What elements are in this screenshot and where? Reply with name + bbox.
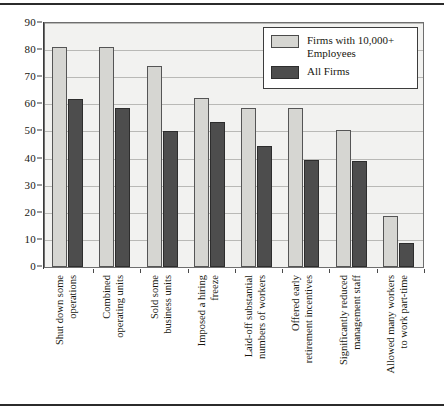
bar-all-firms [163,131,178,267]
y-axis-tick-mark [37,49,42,50]
bar-all-firms [352,161,367,267]
y-axis-tick-label: 80 [25,43,36,55]
y-axis: 0102030405060708090 [0,22,42,268]
bar-all-firms [257,146,272,267]
x-axis-category-label: Combinedoperating units [101,275,126,407]
y-axis-tick-mark [37,211,42,212]
x-axis-label-line2: operating units [114,275,127,407]
bar-firms-10000-plus [99,47,114,267]
bar-all-firms [115,108,130,267]
x-axis-label-line2: management staff [350,275,363,407]
x-axis-tick-mark [424,269,425,273]
x-axis-tick-mark [140,269,141,273]
x-axis-label-line1: Shut down some [54,275,65,345]
y-axis-tick-label: 10 [25,233,36,245]
x-axis-tick-mark [377,269,378,273]
legend-label-all-firms: All Firms [307,65,349,78]
bar-all-firms [68,99,83,267]
y-axis-tick-mark [37,22,42,23]
x-axis-label-line1: Sold some [149,275,160,319]
x-axis-label-line2: freeze [208,275,221,407]
figure-container: 0102030405060708090 Shut down someoperat… [0,0,444,415]
x-axis-label-line2: to work part-time [397,275,410,407]
legend-item-firms-10000-plus: Firms with 10,000+ Employees [271,34,411,60]
legend-swatch-icon-dark [271,66,299,79]
x-axis-category-label: Laid-off substantialnumbers of workers [243,275,268,407]
y-axis-tick-label: 0 [30,260,36,272]
bar-firms-10000-plus [241,108,256,267]
bar-firms-10000-plus [194,98,209,267]
x-axis-tick-mark [282,269,283,273]
x-axis-tick-mark [235,269,236,273]
x-axis-label-line2: business units [161,275,174,407]
x-axis-label-line1: Allowed many workers [385,275,396,374]
bar-all-firms [399,243,414,267]
x-axis-category-label: Imposed a hiringfreeze [196,275,221,407]
x-axis-label-line1: Combined [101,275,112,319]
x-axis-category-label: Shut down someoperations [54,275,79,407]
x-axis-label-line2: retirement incentives [303,275,316,407]
bar-firms-10000-plus [288,108,303,267]
y-axis-tick-mark [37,157,42,158]
chart-legend: Firms with 10,000+ Employees All Firms [263,27,418,89]
y-axis-tick-label: 60 [25,97,36,109]
x-axis-tick-mark [93,269,94,273]
x-axis-category-label: Significantly reducedmanagement staff [338,275,363,407]
bar-firms-10000-plus [383,216,398,268]
y-axis-tick-label: 20 [25,206,36,218]
bar-firms-10000-plus [52,47,67,267]
y-axis-tick-label: 70 [25,70,36,82]
y-axis-tick-label: 30 [25,179,36,191]
x-axis-category-label: Sold somebusiness units [149,275,174,407]
y-axis-tick-label: 40 [25,152,36,164]
y-axis-tick-label: 90 [25,16,36,28]
x-axis-category-label: Allowed many workersto work part-time [385,275,410,407]
x-axis-tick-mark [188,269,189,273]
x-axis-category-label: Offered earlyretirement incentives [290,275,315,407]
bar-all-firms [304,160,319,267]
y-axis-tick-mark [37,103,42,104]
y-axis-tick-mark [37,184,42,185]
legend-item-all-firms: All Firms [271,65,411,79]
x-axis: Shut down someoperationsCombinedoperatin… [44,269,424,409]
x-axis-tick-mark [329,269,330,273]
top-horizontal-rule [0,3,444,5]
x-axis-label-line1: Imposed a hiring [196,275,207,346]
bar-firms-10000-plus [336,130,351,267]
x-axis-label-line1: Offered early [290,275,301,331]
legend-label-firms-10000-plus: Firms with 10,000+ Employees [307,34,394,60]
y-axis-tick-mark [37,266,42,267]
x-axis-label-line2: numbers of workers [256,275,269,407]
x-axis-label-line2: operations [67,275,80,407]
legend-swatch-icon-light [271,35,299,48]
x-axis-label-line1: Significantly reduced [338,275,349,365]
y-axis-tick-label: 50 [25,124,36,136]
y-axis-tick-mark [37,238,42,239]
y-axis-tick-mark [37,76,42,77]
bar-all-firms [210,122,225,267]
gridline [45,23,423,24]
x-axis-label-line1: Laid-off substantial [243,275,254,357]
y-axis-tick-mark [37,130,42,131]
bar-firms-10000-plus [147,66,162,267]
